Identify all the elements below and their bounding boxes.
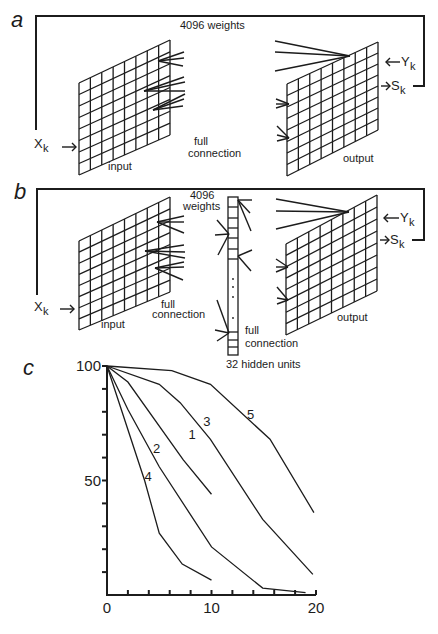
connection-arrow-line: [238, 200, 250, 213]
y-subscript: k: [410, 60, 416, 72]
input-label: input: [108, 160, 132, 172]
connection-arrow-line: [276, 199, 349, 212]
connection-arrow-line: [217, 300, 229, 333]
y-tick-label: 50: [84, 472, 101, 489]
input-label: input: [101, 318, 125, 330]
s-symbol: S: [391, 78, 400, 93]
panel-b: b 4096 weights input output full connect…: [14, 179, 424, 370]
connection-arrow-line: [238, 200, 251, 231]
weights-label: 4096 weights: [180, 19, 245, 31]
curve-label-3: 3: [203, 414, 210, 429]
connection-arrow-line: [215, 234, 229, 235]
connection-arrow-line: [145, 245, 184, 251]
curve-1: [107, 366, 212, 494]
axes-lines: [107, 366, 316, 595]
s-subscript: k: [400, 84, 406, 96]
panel-a: a 4096 weights input output full connect…: [11, 7, 424, 176]
connection1-label-line2: connection: [152, 308, 205, 320]
connection-arrow-line: [276, 212, 349, 229]
input-grid: [79, 40, 170, 175]
ellipsis-dot: [232, 317, 234, 319]
s-output-arrow: S k: [380, 232, 405, 250]
connection-arrow-line: [217, 220, 229, 234]
curve-label-2: 2: [153, 441, 160, 456]
curve-2: [107, 366, 306, 593]
connection-arrow-line: [238, 250, 252, 256]
weights-label-line2: weights: [182, 200, 221, 212]
output-label: output: [337, 311, 368, 323]
x-input-arrow: X k: [34, 136, 76, 154]
x-subscript: k: [43, 142, 49, 154]
curve-label-1: 1: [189, 427, 196, 442]
x-tick-label: 20: [308, 599, 325, 616]
x-subscript: k: [43, 305, 49, 317]
connection-arrow-line: [275, 56, 350, 71]
output-label: output: [343, 152, 374, 164]
curve-3: [107, 366, 313, 574]
y-symbol: Y: [401, 54, 410, 69]
y-symbol: Y: [400, 210, 409, 225]
connection-label-line1: full: [194, 135, 208, 147]
chart-axes: 5010001020: [76, 357, 324, 616]
y-tick-label: 100: [76, 357, 101, 374]
connection-arrow-line: [215, 330, 229, 333]
connection2-label-line1: full: [245, 324, 259, 336]
ellipsis-dot: [232, 296, 234, 298]
x-symbol: X: [34, 299, 43, 314]
panel-c-label: c: [23, 355, 34, 380]
s-symbol: S: [390, 232, 399, 247]
y-subscript: k: [409, 216, 415, 228]
panel-a-label: a: [11, 7, 23, 32]
y-target-arrow: Y k: [386, 54, 416, 72]
curve-label-4: 4: [145, 469, 152, 484]
connection-label-line2: connection: [188, 147, 241, 159]
figure: a 4096 weights input output full connect…: [0, 0, 438, 634]
s-output-arrow: S k: [381, 78, 406, 96]
s-subscript: k: [399, 238, 405, 250]
connection-arrow-line: [276, 211, 349, 212]
connection-arrow-line: [217, 333, 229, 341]
hidden-units-label: 32 hidden units: [226, 358, 301, 370]
chart-curves: 12345: [107, 366, 314, 593]
x-tick-label: 0: [103, 599, 111, 616]
x-symbol: X: [34, 136, 43, 151]
x-input-arrow: X k: [34, 299, 74, 317]
ellipsis-dot: [232, 278, 234, 280]
x-tick-label: 10: [203, 599, 220, 616]
hidden-units-column: [228, 197, 238, 355]
y-target-arrow: Y k: [384, 210, 415, 228]
panel-c: c 5010001020 12345: [23, 355, 324, 616]
connection-arrow-line: [155, 267, 184, 268]
hidden-column-outline: [228, 197, 238, 355]
connection2-label-line2: connection: [245, 337, 298, 349]
feedback-loop-line: [36, 16, 424, 130]
curve-label-5: 5: [247, 407, 254, 422]
connection-arrow-line: [238, 256, 251, 271]
panel-b-label: b: [14, 179, 26, 204]
ellipsis-dot: [232, 286, 234, 288]
